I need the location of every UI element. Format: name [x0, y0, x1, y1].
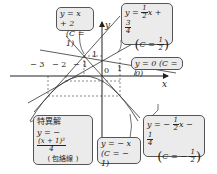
- x-tick-minus-1: − 1: [73, 60, 87, 69]
- x-tick-1: 1: [117, 64, 122, 73]
- singular-title: 特異解: [37, 117, 89, 127]
- label-box-c-minus-half: y = − 12x − 14 (C = − 12): [143, 115, 205, 157]
- x-tick-minus-3: − 3: [30, 60, 44, 69]
- equation: y = x + 2: [60, 9, 90, 29]
- fraction: (x + 1)²4: [37, 138, 66, 153]
- eq-mid: x +: [148, 8, 162, 17]
- fraction: 34: [125, 20, 131, 35]
- label-box-c-1: y = x + 2 (C = 1): [56, 7, 94, 31]
- y-axis-label: y: [105, 20, 110, 30]
- envelope-note: ( 包絡線 ): [37, 154, 89, 164]
- equation: y = − x: [101, 139, 137, 149]
- constant: (C = 1): [60, 29, 90, 49]
- fraction: 14: [147, 132, 153, 147]
- label-box-singular-solution: 特異解 y = − (x + 1)²4 ( 包絡線 ): [33, 115, 93, 165]
- eq-prefix: y = −: [147, 120, 173, 129]
- x-axis-label: x: [162, 79, 167, 89]
- constant-prefix: C =: [140, 40, 158, 49]
- eq-prefix: y = −: [37, 128, 60, 137]
- eq-mid: x −: [179, 120, 193, 129]
- origin-label: 0: [104, 66, 109, 75]
- x-tick-minus-2: − 2: [52, 60, 66, 69]
- label-box-c-0: y = 0 (C = 0): [131, 57, 183, 70]
- eq-prefix: y =: [125, 8, 141, 17]
- constant-prefix: C = −: [162, 152, 189, 161]
- y-tick-1: 1: [92, 50, 97, 59]
- label-box-c-minus-1: y = − x (C = − 1): [97, 137, 141, 164]
- label-box-c-half: y = 12x + 34 (C = 12): [121, 3, 173, 45]
- constant: (C = − 1): [101, 149, 137, 169]
